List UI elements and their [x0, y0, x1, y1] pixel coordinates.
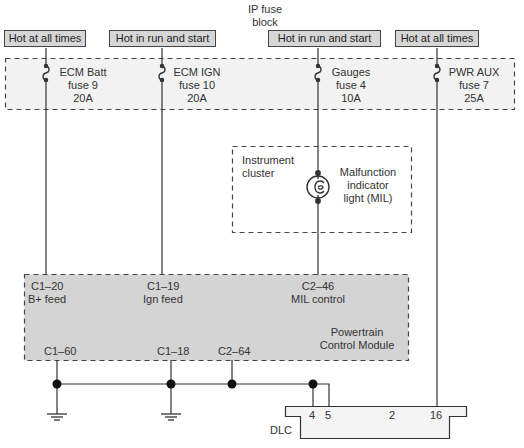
fuse-rating: 10A: [326, 92, 376, 105]
pcm-title: Powertrain Control Module: [312, 326, 402, 352]
mil-label-line1: Malfunction: [333, 166, 403, 179]
pcm-input-b-plus: C1–20 B+ feed: [28, 280, 66, 306]
fuse-block-title-line2: block: [240, 16, 290, 29]
mil-label: Malfunction indicator light (MIL): [333, 166, 403, 205]
fuse-name: PWR AUX: [446, 66, 502, 79]
instrument-cluster-title-line1: Instrument: [242, 154, 294, 167]
fuse-label-ecm-batt: ECM Batt fuse 9 20A: [55, 66, 111, 105]
power-label-aux: Hot at all times: [395, 30, 479, 47]
fuse-rating: 20A: [169, 92, 225, 105]
dlc-pin-16: 16: [430, 409, 442, 422]
power-label-ign: Hot in run and start: [109, 30, 216, 47]
pcm-input-mil: C2–46 MIL control: [287, 280, 349, 306]
fuse-label-ecm-ign: ECM IGN fuse 10 20A: [169, 66, 225, 105]
fuse-rating: 20A: [55, 92, 111, 105]
pcm-title-line2: Control Module: [312, 339, 402, 352]
pcm-ground-c2-64: C2–64: [218, 345, 250, 358]
fuse-block-title-line1: IP fuse: [240, 3, 290, 16]
fuse-label-pwr-aux: PWR AUX fuse 7 25A: [446, 66, 502, 105]
fuse-number: fuse 9: [55, 79, 111, 92]
mil-label-line3: light (MIL): [333, 192, 403, 205]
dlc-pin-4: 4: [309, 409, 315, 422]
pcm-ground-c1-18: C1–18: [157, 345, 189, 358]
ground-icon: [161, 414, 181, 420]
fuse-label-gauges: Gauges fuse 4 10A: [326, 66, 376, 105]
fuse-number: fuse 4: [326, 79, 376, 92]
mil-label-line2: indicator: [333, 179, 403, 192]
fuse-number: fuse 10: [169, 79, 225, 92]
pin-id: C1–19: [143, 280, 183, 293]
dlc-pin-2: 2: [389, 409, 395, 422]
pin-desc: B+ feed: [28, 293, 66, 306]
pcm-ground-c1-60: C1–60: [44, 345, 76, 358]
power-label-batt: Hot at all times: [4, 30, 86, 47]
pin-id: C2–46: [287, 280, 349, 293]
instrument-cluster-title-line2: cluster: [242, 167, 294, 180]
pcm-title-line1: Powertrain: [312, 326, 402, 339]
dlc-pin-5: 5: [325, 409, 331, 422]
fuse-number: fuse 7: [446, 79, 502, 92]
pin-id: C1–20: [28, 280, 66, 293]
power-label-gauges: Hot in run and start: [268, 30, 381, 47]
pin-desc: Ign feed: [143, 293, 183, 306]
pin-desc: MIL control: [287, 293, 349, 306]
fuse-name: ECM Batt: [55, 66, 111, 79]
ground-icon: [47, 414, 67, 420]
pcm-input-ign: C1–19 Ign feed: [143, 280, 183, 306]
fuse-rating: 25A: [446, 92, 502, 105]
fuse-name: Gauges: [326, 66, 376, 79]
dlc-label: DLC: [270, 424, 292, 437]
instrument-cluster-title: Instrument cluster: [242, 154, 294, 180]
fuse-name: ECM IGN: [169, 66, 225, 79]
fuse-block-title: IP fuse block: [240, 3, 290, 29]
